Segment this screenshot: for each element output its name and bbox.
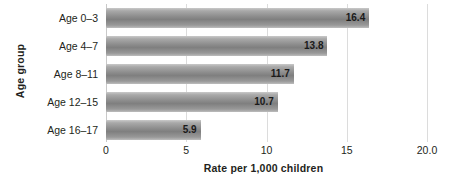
bar-row: 11.7 bbox=[106, 64, 427, 84]
bar-value-label: 5.9 bbox=[106, 120, 197, 140]
category-label: Age 8–11 bbox=[26, 68, 98, 80]
bar-value-label: 10.7 bbox=[106, 92, 274, 112]
x-axis-title-label: Rate per 1,000 children bbox=[140, 162, 324, 174]
category-label: Age 0–3 bbox=[26, 12, 98, 24]
bar-row: 5.9 bbox=[106, 120, 427, 140]
y-axis-title-label: Age group bbox=[14, 44, 26, 98]
bar-value-label: 16.4 bbox=[106, 8, 365, 28]
bar-row: 13.8 bbox=[106, 36, 427, 56]
x-axis-ticks: 05101520.0 bbox=[106, 142, 427, 160]
x-tick-label: 15 bbox=[341, 144, 353, 156]
bar-value-label: 11.7 bbox=[106, 64, 290, 84]
x-tick-label: 5 bbox=[183, 144, 189, 156]
x-axis-title: Rate per 1,000 children bbox=[0, 162, 463, 174]
x-tick-label: 0 bbox=[103, 144, 109, 156]
gridline bbox=[427, 4, 428, 142]
bar-row: 10.7 bbox=[106, 92, 427, 112]
category-label: Age 4–7 bbox=[26, 40, 98, 52]
bar-value-label: 13.8 bbox=[106, 36, 323, 56]
bar-chart: Age group Age 0–3Age 4–7Age 8–11Age 12–1… bbox=[0, 0, 463, 186]
x-tick-label: 20.0 bbox=[417, 144, 437, 156]
category-label: Age 12–15 bbox=[26, 96, 98, 108]
bar-row: 16.4 bbox=[106, 8, 427, 28]
x-tick-label: 10 bbox=[261, 144, 273, 156]
category-axis-labels: Age 0–3Age 4–7Age 8–11Age 12–15Age 16–17 bbox=[30, 0, 102, 142]
category-label: Age 16–17 bbox=[26, 124, 98, 136]
plot-area: 16.413.811.710.75.9 bbox=[106, 0, 427, 142]
